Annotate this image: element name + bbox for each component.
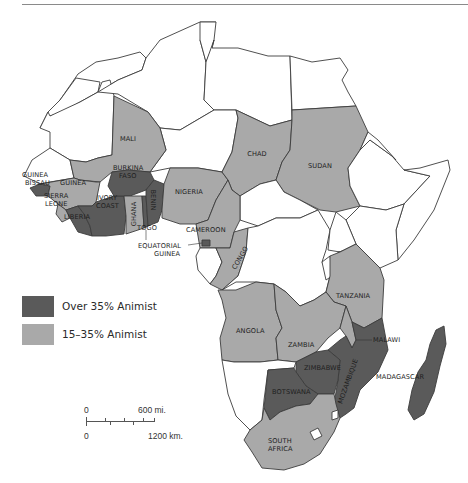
scale-km-max: 1200 km. [148,431,183,441]
label-zimbabwe: ZIMBABWE [304,364,341,372]
label-zambia: ZAMBIA [288,341,315,349]
label-nigeria: NIGERIA [175,188,203,196]
label-guinea: GUINEA [60,179,86,187]
label-burkina-faso-line1: BURKINA [113,164,144,172]
label-equatorial-guinea-line1: EQUATORIAL [138,242,181,250]
label-benin: BENIN [149,190,157,211]
legend-swatch-dark [22,296,54,317]
scale-tick [110,422,111,425]
label-guinea-bissau-line2: BISSAU [25,179,50,187]
country-equatorial-guinea [202,240,210,246]
label-ghana: GHANA [130,201,138,226]
legend-item-15-35: 15–35% Animist [22,320,157,348]
label-tanzania: TANZANIA [335,292,371,300]
label-mali: MALI [120,135,136,143]
legend: Over 35% Animist 15–35% Animist [22,292,157,348]
scale-miles-zero: 0 [84,405,89,415]
label-south-africa-line1: SOUTH [268,437,292,445]
country-angola [218,282,282,362]
label-ivory-coast-line1: IVORY [97,194,118,202]
label-angola: ANGOLA [236,327,265,335]
label-sudan: SUDAN [308,162,332,170]
label-malawi: MALAWI [373,336,400,344]
label-south-africa-line2: AFRICA [268,445,293,453]
scale-line [86,421,154,422]
label-madagascar: MADAGASCAR [376,373,424,381]
scale-tick [86,417,87,426]
label-liberia: LIBERIA [64,213,90,221]
africa-map: MALI CHAD SUDAN GUINEA BISSAU GUINEA SIE… [0,0,468,483]
scale-miles-max: 600 mi. [138,405,166,415]
legend-label: 15–35% Animist [62,328,147,340]
label-togo: TOGO [136,224,157,232]
label-botswana: BOTSWANA [272,388,311,396]
label-guinea-bissau-line1: GUINEA [22,171,48,179]
scale-bar: 0 600 mi. 0 1200 km. [84,405,194,445]
label-sierra-leone-line1: SIERRA [44,192,69,200]
scale-tick [154,418,155,422]
country-swaziland [332,410,338,420]
label-chad: CHAD [247,150,267,158]
legend-swatch-light [22,324,54,345]
country-egypt [290,56,356,110]
label-equatorial-guinea-line2: GUINEA [154,250,180,258]
scale-tick [143,418,144,421]
scale-tick [105,418,106,421]
scale-km-zero: 0 [84,431,89,441]
label-cameroon: CAMEROON [186,226,226,234]
label-sierra-leone-line2: LEONE [45,200,68,208]
label-burkina-faso-line2: FASO [119,172,136,180]
label-ivory-coast-line2: COAST [96,202,120,210]
legend-label: Over 35% Animist [62,300,157,312]
legend-item-over-35: Over 35% Animist [22,292,157,320]
scale-tick [133,422,134,425]
scale-tick [124,418,125,421]
